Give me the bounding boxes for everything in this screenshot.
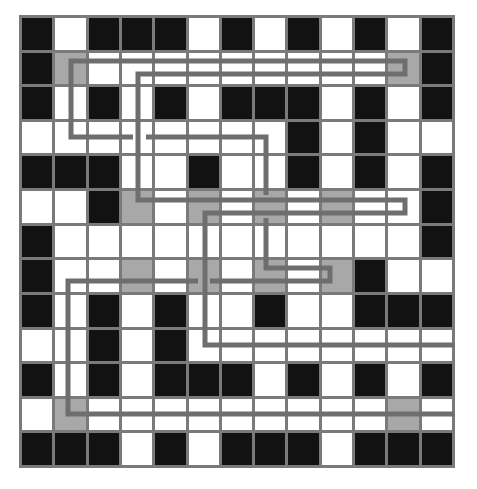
grid-cell-r0-c10[interactable] (355, 18, 385, 50)
grid-cell-r7-c11[interactable] (388, 260, 418, 292)
grid-cell-r7-c5[interactable] (189, 260, 219, 292)
grid-cell-r12-c5[interactable] (189, 433, 219, 465)
grid-cell-r5-c11[interactable] (388, 191, 418, 223)
grid-cell-r5-c1[interactable] (55, 191, 85, 223)
grid-cell-r4-c11[interactable] (388, 156, 418, 188)
grid-cell-r12-c8[interactable] (288, 433, 318, 465)
grid-cell-r3-c11[interactable] (388, 122, 418, 154)
grid-cell-r12-c3[interactable] (122, 433, 152, 465)
grid-cell-r7-c9[interactable] (322, 260, 352, 292)
grid-cell-r10-c12[interactable] (422, 364, 452, 396)
grid-cell-r11-c9[interactable] (322, 399, 352, 431)
grid-cell-r12-c12[interactable] (422, 433, 452, 465)
grid-cell-r8-c8[interactable] (288, 295, 318, 327)
grid-cell-r2-c3[interactable] (122, 87, 152, 119)
grid-cell-r5-c9[interactable] (322, 191, 352, 223)
grid-cell-r6-c8[interactable] (288, 226, 318, 258)
grid-cell-r9-c3[interactable] (122, 330, 152, 362)
grid-cell-r2-c11[interactable] (388, 87, 418, 119)
grid-cell-r9-c11[interactable] (388, 330, 418, 362)
grid-cell-r4-c4[interactable] (155, 156, 185, 188)
grid-cell-r6-c3[interactable] (122, 226, 152, 258)
grid-cell-r1-c3[interactable] (122, 53, 152, 85)
grid-cell-r3-c0[interactable] (22, 122, 52, 154)
grid-cell-r0-c5[interactable] (189, 18, 219, 50)
grid-cell-r6-c9[interactable] (322, 226, 352, 258)
grid-cell-r6-c1[interactable] (55, 226, 85, 258)
grid-cell-r3-c12[interactable] (422, 122, 452, 154)
grid-cell-r12-c0[interactable] (22, 433, 52, 465)
grid-cell-r7-c1[interactable] (55, 260, 85, 292)
grid-cell-r7-c8[interactable] (288, 260, 318, 292)
grid-cell-r8-c2[interactable] (89, 295, 119, 327)
grid-cell-r0-c7[interactable] (255, 18, 285, 50)
grid-cell-r8-c1[interactable] (55, 295, 85, 327)
grid-cell-r9-c10[interactable] (355, 330, 385, 362)
grid-cell-r4-c12[interactable] (422, 156, 452, 188)
grid-cell-r8-c10[interactable] (355, 295, 385, 327)
grid-cell-r5-c4[interactable] (155, 191, 185, 223)
grid-cell-r11-c7[interactable] (255, 399, 285, 431)
grid-cell-r3-c1[interactable] (55, 122, 85, 154)
grid-cell-r2-c6[interactable] (222, 87, 252, 119)
grid-cell-r1-c9[interactable] (322, 53, 352, 85)
grid-cell-r2-c1[interactable] (55, 87, 85, 119)
grid-cell-r8-c3[interactable] (122, 295, 152, 327)
grid-cell-r7-c3[interactable] (122, 260, 152, 292)
grid-cell-r0-c1[interactable] (55, 18, 85, 50)
grid-cell-r5-c2[interactable] (89, 191, 119, 223)
grid-cell-r11-c8[interactable] (288, 399, 318, 431)
grid-cell-r12-c10[interactable] (355, 433, 385, 465)
grid-cell-r10-c10[interactable] (355, 364, 385, 396)
grid-cell-r9-c1[interactable] (55, 330, 85, 362)
grid-cell-r2-c7[interactable] (255, 87, 285, 119)
grid-cell-r6-c11[interactable] (388, 226, 418, 258)
grid-cell-r8-c4[interactable] (155, 295, 185, 327)
grid-cell-r11-c6[interactable] (222, 399, 252, 431)
grid-cell-r3-c5[interactable] (189, 122, 219, 154)
grid-cell-r2-c10[interactable] (355, 87, 385, 119)
grid-cell-r8-c5[interactable] (189, 295, 219, 327)
grid-cell-r3-c8[interactable] (288, 122, 318, 154)
grid-cell-r5-c10[interactable] (355, 191, 385, 223)
grid-cell-r9-c2[interactable] (89, 330, 119, 362)
grid-cell-r0-c4[interactable] (155, 18, 185, 50)
grid-cell-r11-c10[interactable] (355, 399, 385, 431)
grid-cell-r6-c10[interactable] (355, 226, 385, 258)
grid-cell-r12-c9[interactable] (322, 433, 352, 465)
grid-cell-r4-c9[interactable] (322, 156, 352, 188)
grid-cell-r7-c6[interactable] (222, 260, 252, 292)
grid-cell-r5-c8[interactable] (288, 191, 318, 223)
grid-cell-r4-c6[interactable] (222, 156, 252, 188)
grid-cell-r9-c6[interactable] (222, 330, 252, 362)
grid-cell-r9-c8[interactable] (288, 330, 318, 362)
grid-cell-r1-c11[interactable] (388, 53, 418, 85)
grid-cell-r7-c2[interactable] (89, 260, 119, 292)
grid-cell-r10-c5[interactable] (189, 364, 219, 396)
grid-cell-r2-c12[interactable] (422, 87, 452, 119)
grid-cell-r0-c8[interactable] (288, 18, 318, 50)
grid-cell-r1-c4[interactable] (155, 53, 185, 85)
grid-cell-r4-c7[interactable] (255, 156, 285, 188)
grid-cell-r1-c1[interactable] (55, 53, 85, 85)
grid-cell-r4-c8[interactable] (288, 156, 318, 188)
grid-cell-r10-c0[interactable] (22, 364, 52, 396)
grid-cell-r10-c4[interactable] (155, 364, 185, 396)
grid-cell-r10-c3[interactable] (122, 364, 152, 396)
grid-cell-r11-c11[interactable] (388, 399, 418, 431)
grid-cell-r5-c12[interactable] (422, 191, 452, 223)
grid-cell-r6-c12[interactable] (422, 226, 452, 258)
grid-cell-r6-c5[interactable] (189, 226, 219, 258)
grid-cell-r4-c3[interactable] (122, 156, 152, 188)
grid-cell-r3-c3[interactable] (122, 122, 152, 154)
grid-cell-r3-c7[interactable] (255, 122, 285, 154)
grid-cell-r10-c1[interactable] (55, 364, 85, 396)
grid-cell-r12-c6[interactable] (222, 433, 252, 465)
grid-cell-r4-c5[interactable] (189, 156, 219, 188)
grid-cell-r8-c0[interactable] (22, 295, 52, 327)
grid-cell-r0-c11[interactable] (388, 18, 418, 50)
grid-cell-r2-c8[interactable] (288, 87, 318, 119)
grid-cell-r5-c0[interactable] (22, 191, 52, 223)
grid-cell-r3-c2[interactable] (89, 122, 119, 154)
grid-cell-r10-c8[interactable] (288, 364, 318, 396)
